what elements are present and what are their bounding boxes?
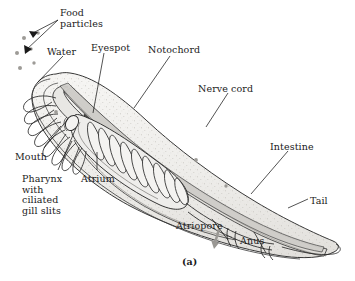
label-atriopore: Atriopore bbox=[176, 221, 223, 232]
label-atrium: Atrium bbox=[81, 174, 115, 185]
leader-tail bbox=[288, 199, 308, 208]
label-notochord: Notochord bbox=[148, 45, 200, 56]
label-food-particles: Food particles bbox=[60, 8, 103, 29]
food-particle bbox=[54, 110, 58, 114]
label-mouth: Mouth bbox=[15, 152, 47, 163]
label-intestine: Intestine bbox=[270, 142, 314, 153]
food-particle bbox=[15, 51, 19, 55]
food-particle bbox=[18, 66, 22, 70]
figure-caption: (a) bbox=[182, 256, 197, 267]
label-anus: Anus bbox=[240, 236, 264, 247]
food-particle bbox=[22, 36, 26, 40]
label-tail: Tail bbox=[310, 196, 328, 207]
arrowhead-food-a bbox=[29, 31, 38, 38]
leader-nervecord bbox=[206, 93, 228, 127]
food-particle bbox=[224, 184, 227, 187]
food-particle bbox=[194, 158, 198, 162]
label-pharynx: Pharynx with ciliated gill slits bbox=[22, 174, 62, 216]
label-water: Water bbox=[47, 47, 76, 58]
leader-intestine bbox=[251, 151, 288, 194]
label-nerve-cord: Nerve cord bbox=[198, 84, 253, 95]
leader-notochord bbox=[134, 56, 170, 108]
arrowhead-food-b bbox=[24, 45, 32, 54]
food-particle bbox=[32, 61, 35, 64]
label-eyespot: Eyespot bbox=[91, 43, 130, 54]
